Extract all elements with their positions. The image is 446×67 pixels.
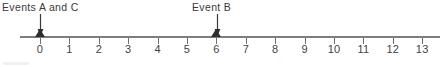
axis-tick-label: 7 <box>231 43 261 55</box>
axis-tick-label: 10 <box>319 43 349 55</box>
scan-edge-artifact <box>3 62 29 65</box>
axis-tick-label: 5 <box>172 43 202 55</box>
axis-tick-label: 6 <box>201 43 231 55</box>
event-label-b: Event B <box>192 1 231 13</box>
axis-tick-label: 11 <box>348 43 378 55</box>
event-label-a-and-c: Events A and C <box>2 1 79 13</box>
axis-tick-label: 13 <box>407 43 437 55</box>
event-marker <box>35 29 45 37</box>
axis-tick-label: 9 <box>290 43 320 55</box>
axis-tick-label: 12 <box>378 43 408 55</box>
axis-tick-label: 3 <box>113 43 143 55</box>
axis-tick-label: 0 <box>25 43 55 55</box>
number-line-axis <box>20 36 440 38</box>
axis-tick-label: 1 <box>54 43 84 55</box>
event-marker <box>211 29 221 37</box>
number-line-figure: Events A and C Event B 01234567891011121… <box>0 0 446 67</box>
axis-tick-label: 8 <box>260 43 290 55</box>
axis-tick-label: 2 <box>84 43 114 55</box>
axis-tick-label: 4 <box>143 43 173 55</box>
